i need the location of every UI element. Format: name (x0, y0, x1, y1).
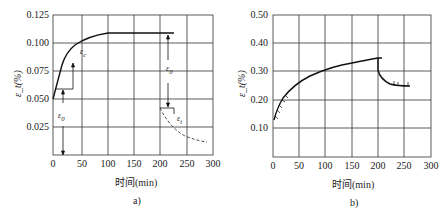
chart-panel-b: 0.50 0.40 0.30 0.20 0.10 0 50 100 150 20… (222, 0, 444, 213)
y-tick: 0.025 (9, 122, 49, 132)
annotation-epsilon0-right: ε0 (166, 64, 172, 75)
panel-caption: a) (133, 195, 141, 206)
y-axis-label: ε_t(%) (12, 70, 23, 97)
chart-a-plot (0, 0, 222, 213)
y-tick: 0.100 (9, 38, 49, 48)
recovery-curve (160, 108, 207, 142)
annotation-epsilon-t: εt (177, 114, 182, 125)
epsilon0-left-arrows (55, 63, 75, 155)
y-tick: 0.50 (228, 10, 268, 20)
x-tick: 250 (389, 161, 419, 171)
x-tick: 100 (310, 161, 340, 171)
x-tick: 0 (38, 159, 68, 169)
x-axis-label: 时间(min) (115, 174, 157, 189)
y-axis-label: ε_t(%) (236, 70, 247, 97)
chart-panel-a: 0.125 0.100 0.075 0.050 0.025 0 50 100 1… (0, 0, 222, 213)
y-tick: 0.125 (9, 10, 49, 20)
y-tick: 0.10 (228, 123, 268, 133)
x-tick: 200 (145, 159, 175, 169)
annotation-epsilon-c: εc (80, 47, 86, 58)
creep-curve (274, 58, 382, 120)
y-tick: 0.40 (228, 38, 268, 48)
panel-caption: b) (350, 197, 358, 208)
annotation-epsilon0-left: ε0 (58, 111, 64, 122)
y-tick: 0.30 (228, 66, 268, 76)
x-tick: 300 (416, 161, 444, 171)
y-tick: 0.20 (228, 95, 268, 105)
x-axis-label: 时间(min) (332, 176, 374, 191)
grid-lines (53, 15, 213, 155)
